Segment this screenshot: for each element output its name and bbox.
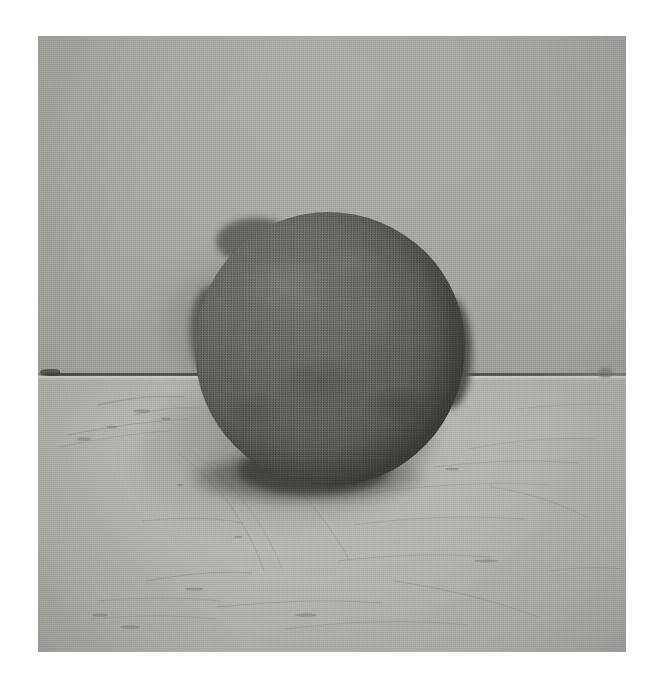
photograph: A grainy black-and-white photograph of a… <box>38 36 626 652</box>
clay-ball-surface-mottling <box>195 212 465 486</box>
clay-ball <box>195 212 465 486</box>
photo-page: A grainy black-and-white photograph of a… <box>0 0 661 681</box>
seam-nick-right <box>598 368 612 378</box>
seam-nick-left <box>40 369 60 376</box>
